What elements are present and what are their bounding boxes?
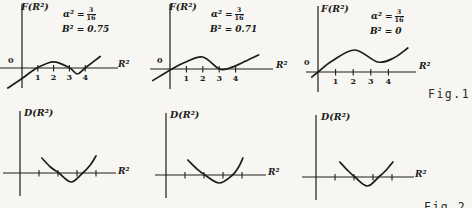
plot5-x-axis-label: R² <box>268 167 279 177</box>
plot5-y-axis-label: D(R²) <box>170 109 199 120</box>
curve <box>188 158 243 183</box>
plot3-y-axis-label: F(R²) <box>321 3 349 14</box>
figure-2-caption: Fig.2 <box>424 202 466 208</box>
curve <box>42 156 96 182</box>
tick-label: 3 <box>368 76 374 86</box>
plot6-x-axis-label: R² <box>415 169 426 179</box>
plot2-origin-label: 0 <box>157 55 163 65</box>
tick-label: 2 <box>51 72 57 82</box>
plot3-origin-label: 0 <box>304 57 310 67</box>
plot2-annotation: α² = 3 16 B² = 0.71 <box>211 7 257 34</box>
curve <box>340 162 393 186</box>
tick-label: 1 <box>333 76 339 86</box>
plot3-x-axis-label: R² <box>419 61 430 71</box>
curve <box>153 55 259 81</box>
tick-label: 1 <box>35 72 41 82</box>
tick-label: 2 <box>200 73 206 83</box>
plot3-alpha-equation: α² = <box>371 12 393 21</box>
tick-label: 4 <box>233 73 239 83</box>
plot3-fraction: 3 16 <box>395 9 404 24</box>
plot4-x-axis-label: R² <box>118 166 129 176</box>
figure-1-caption: Fig.1 <box>428 89 470 101</box>
plot4-y-axis-label: D(R²) <box>24 107 53 118</box>
plot-5-graphics <box>155 113 266 198</box>
tick-label: 3 <box>216 73 222 83</box>
plot1-annotation: α² = 3 16 B² = 0.75 <box>63 7 109 34</box>
tick-label: 3 <box>67 72 73 82</box>
plot-6-graphics <box>302 115 414 200</box>
tick-label: 4 <box>82 72 88 82</box>
plot3-b-squared-value: B² = 0 <box>370 27 404 36</box>
plot2-x-axis-label: R² <box>276 60 287 70</box>
plot6-y-axis-label: D(R²) <box>321 111 350 122</box>
curve <box>312 48 408 77</box>
fraction-denominator: 16 <box>235 15 244 22</box>
plot-4-graphics <box>3 111 116 196</box>
plot3-annotation: α² = 3 16 B² = 0 <box>371 9 404 36</box>
plot1-alpha-equation: α² = <box>63 10 85 19</box>
plot2-fraction: 3 16 <box>235 7 244 22</box>
plot2-alpha-equation: α² = <box>211 10 233 19</box>
tick-label: 4 <box>386 76 392 86</box>
fraction-denominator: 16 <box>87 15 96 22</box>
tick-label: 1 <box>184 73 190 83</box>
plot1-b-squared-value: B² = 0.75 <box>62 25 109 34</box>
fraction-denominator: 16 <box>395 17 404 24</box>
plot1-fraction: 3 16 <box>87 7 96 22</box>
scanned-figure-page: 123412341234 F(R²) F(R²) F(R²) D(R²) D(R… <box>0 0 472 208</box>
plot2-b-squared-value: B² = 0.71 <box>210 25 257 34</box>
plot2-y-axis-label: F(R²) <box>169 1 197 12</box>
plot1-x-axis-label: R² <box>118 59 129 69</box>
tick-label: 2 <box>350 76 356 86</box>
plot1-origin-label: 0 <box>8 55 14 65</box>
plot1-y-axis-label: F(R²) <box>21 1 49 12</box>
